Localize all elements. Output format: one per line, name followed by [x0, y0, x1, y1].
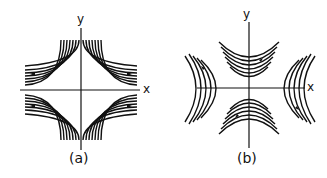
y-axis-label-a: y: [77, 13, 84, 25]
panel-b: y x (b): [163, 0, 327, 178]
x-axis-label-a: x: [143, 83, 150, 95]
y-axis-label-b: y: [243, 8, 250, 20]
caption-b: (b): [237, 151, 257, 165]
caption-a: (a): [69, 151, 89, 165]
panel-a: y x (a): [0, 0, 163, 178]
x-axis-label-b: x: [307, 81, 314, 93]
axes-a: [20, 28, 140, 150]
